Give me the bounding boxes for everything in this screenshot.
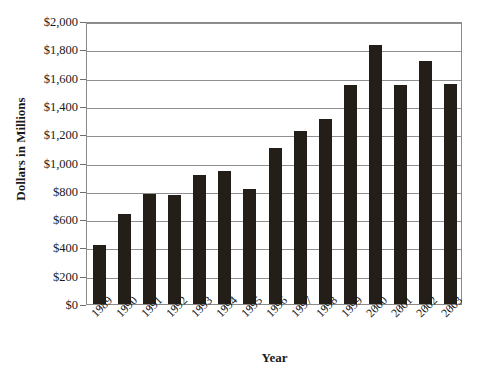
x-axis-tick-label: 1999 — [339, 294, 364, 319]
x-axis-tick-label: 2003 — [439, 294, 464, 319]
x-axis-tick-label: 1996 — [264, 294, 289, 319]
x-axis-tick-label: 2000 — [364, 294, 389, 319]
bar-chart-figure: Dollars in Millions $0$200$400$600$800$1… — [0, 0, 483, 372]
x-axis-tick-label: 1995 — [239, 294, 264, 319]
x-axis-tick-label: 1991 — [139, 294, 164, 319]
x-axis-tick-label: 1998 — [314, 294, 339, 319]
x-axis-tick-label: 2001 — [389, 294, 414, 319]
x-axis-tick-label: 1990 — [114, 294, 139, 319]
x-axis-tick-label: 1993 — [189, 294, 214, 319]
x-axis-tick-labels: 1989199019911992199319941995199619971998… — [0, 0, 483, 372]
x-axis-tick-label: 1997 — [289, 294, 314, 319]
x-axis-tick-label: 1989 — [89, 294, 114, 319]
x-axis-tick-label: 1994 — [214, 294, 239, 319]
x-axis-tick-label: 2002 — [414, 294, 439, 319]
x-axis-tick-label: 1992 — [164, 294, 189, 319]
x-axis-title: Year — [86, 350, 463, 366]
